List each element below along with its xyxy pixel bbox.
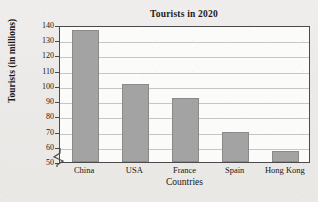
chart-figure: Tourists in 2020 Tourists (in millions) … bbox=[0, 0, 318, 202]
y-axis-tick-label: 120 bbox=[32, 52, 54, 60]
y-axis-title: Tourists (in millions) bbox=[7, 1, 17, 121]
bar bbox=[72, 30, 99, 162]
y-axis-tick-label: 100 bbox=[32, 83, 54, 91]
y-axis-tick-label: 90 bbox=[32, 98, 54, 106]
y-axis-tick-label: 70 bbox=[32, 129, 54, 137]
bar bbox=[222, 132, 249, 162]
bar bbox=[272, 151, 299, 162]
y-axis-tick-label: 110 bbox=[32, 68, 54, 76]
bar bbox=[172, 98, 199, 162]
y-axis-tick-label: 130 bbox=[32, 37, 54, 45]
bar bbox=[122, 84, 149, 162]
y-axis-tick-label: 80 bbox=[32, 113, 54, 121]
y-axis-tick-label: 140 bbox=[32, 22, 54, 30]
x-axis-tick-label: Hong Kong bbox=[245, 165, 318, 175]
plot-area bbox=[59, 26, 310, 163]
chart-title: Tourists in 2020 bbox=[55, 9, 313, 19]
x-axis-title: Countries bbox=[59, 177, 310, 187]
